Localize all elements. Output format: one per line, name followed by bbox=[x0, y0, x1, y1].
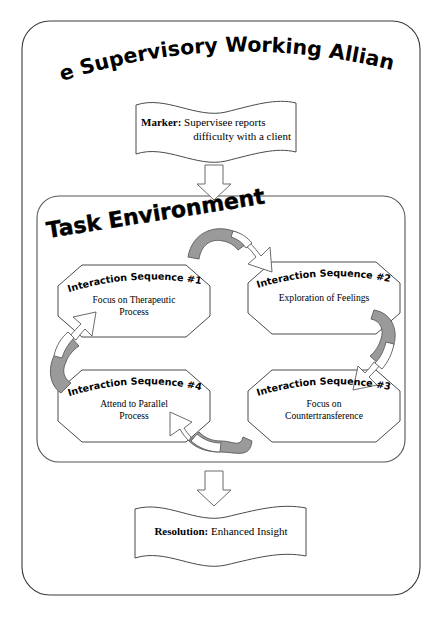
resolution-label: Resolution: bbox=[154, 525, 208, 537]
node-4-description: Attend to Parallel Process bbox=[58, 398, 210, 422]
node-1-line1: Focus on Therapeutic bbox=[58, 294, 210, 306]
node-3-description: Focus on Countertransference bbox=[248, 398, 400, 422]
node-1-description: Focus on Therapeutic Process bbox=[58, 294, 210, 318]
node-2-description: Exploration of Feelings bbox=[248, 292, 400, 304]
node-4-line2: Process bbox=[58, 410, 210, 422]
node-3-line2: Countertransference bbox=[248, 410, 400, 422]
marker-text-line2: difficulty with a client bbox=[141, 129, 293, 143]
node-1-line2: Process bbox=[58, 306, 210, 318]
resolution-banner-text: Resolution: Enhanced Insight bbox=[135, 524, 307, 538]
marker-text-line1: Supervisee reports bbox=[184, 116, 266, 128]
marker-label: Marker: bbox=[141, 116, 181, 128]
diagram-canvas: The Supervisory Working Alliance Task En… bbox=[0, 0, 441, 618]
resolution-text: Enhanced Insight bbox=[211, 525, 288, 537]
node-2-line1: Exploration of Feelings bbox=[248, 292, 400, 304]
marker-banner-text: Marker: Supervisee reports difficulty wi… bbox=[141, 115, 293, 143]
node-3-line1: Focus on bbox=[248, 398, 400, 410]
node-4-line1: Attend to Parallel bbox=[58, 398, 210, 410]
